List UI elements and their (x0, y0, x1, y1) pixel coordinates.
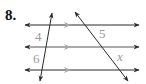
parallel-lines-diagram: 4 6 5 x (0, 0, 146, 84)
label-left-top: 4 (35, 29, 42, 44)
label-right-bottom: x (116, 49, 123, 64)
parallel-line-top (25, 22, 139, 28)
label-right-top: 5 (99, 26, 106, 41)
label-left-bottom: 6 (33, 51, 40, 66)
